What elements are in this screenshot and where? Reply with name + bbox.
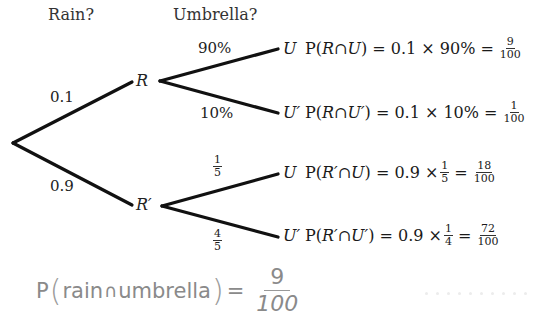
prob-rain: 0.1 — [50, 88, 74, 106]
outcome-Rprime-Uprime: U′ P(R′ ∩ U′) = 0.9 × 14 = 72100 — [283, 223, 501, 248]
prob-R-Uprime: 10% — [200, 104, 233, 122]
result-fraction: 72100 — [476, 223, 499, 248]
header-rain: Rain? — [48, 5, 94, 24]
prob-Rprime-U: 1 5 — [213, 154, 222, 179]
result-fraction: 18100 — [473, 160, 496, 185]
faint-dots-decoration — [425, 292, 527, 295]
handwritten-result: P ( rain ∩ umbrella ) = 9 100 — [36, 264, 304, 317]
node-R-prime: R′ — [136, 195, 152, 214]
node-R: R — [136, 71, 148, 90]
outcome-R-Uprime: U′ P(R ∩ U′) = 0.1 × 10% = 1100 — [283, 100, 528, 125]
prob-R-U: 90% — [198, 39, 231, 57]
leaf-label: U′ — [283, 226, 305, 245]
prob-Rprime-Uprime: 4 5 — [213, 228, 222, 253]
leaf-label: U — [283, 39, 305, 58]
result-fraction: 9100 — [499, 36, 522, 61]
leaf-label: U′ — [283, 103, 305, 122]
prob-no-rain: 0.9 — [50, 177, 74, 195]
multiplier-fraction: 14 — [444, 223, 453, 248]
handwritten-fraction: 9 100 — [250, 264, 304, 317]
leaf-label: U — [283, 163, 305, 182]
branch-root-to-Rprime — [13, 143, 132, 205]
outcome-Rprime-U: U P(R′ ∩ U) = 0.9 × 15 = 18100 — [283, 160, 498, 185]
outcome-R-U: U P(R ∩ U) = 0.1 × 90% = 9100 — [283, 36, 524, 61]
result-fraction: 1100 — [503, 100, 526, 125]
multiplier-fraction: 15 — [440, 160, 449, 185]
header-umbrella: Umbrella? — [173, 5, 257, 24]
